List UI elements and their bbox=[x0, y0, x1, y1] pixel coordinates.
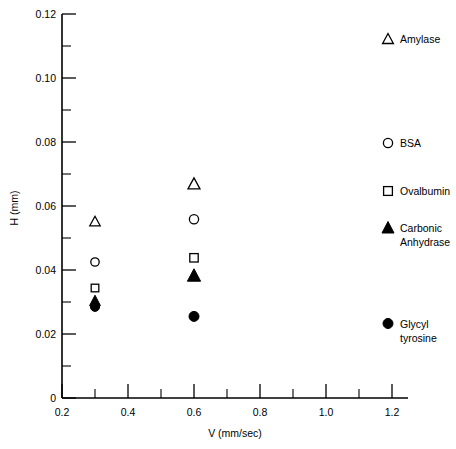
data-point-ovalbumin-0.6 bbox=[190, 254, 198, 262]
x-tick-label-1.0: 1.0 bbox=[319, 406, 334, 418]
data-point-amylase-0.6 bbox=[188, 178, 200, 189]
y-tick-label-0.08: 0.08 bbox=[36, 136, 57, 148]
open-triangle-icon bbox=[383, 34, 394, 44]
x-tick-label-0.6: 0.6 bbox=[187, 406, 202, 418]
series-carbonic-anhydrase bbox=[90, 269, 201, 306]
y-tick-label-0: 0 bbox=[50, 392, 56, 404]
legend-entry-glycyl-tyrosine: Glycyl tyrosine bbox=[383, 318, 437, 344]
open-circle-icon bbox=[383, 138, 392, 147]
data-point-carbonic-anhydrase-0.6 bbox=[187, 269, 200, 281]
x-axis-title: V (mm/sec) bbox=[208, 427, 262, 439]
open-square-icon bbox=[384, 187, 393, 196]
x-tick-labels: 0.2 0.4 0.6 0.8 1.0 1.2 bbox=[55, 406, 400, 418]
filled-triangle-icon bbox=[382, 222, 394, 234]
plot-canvas: 0.12 0.10 0.08 0.06 0.04 0.02 0 0.2 bbox=[0, 0, 456, 449]
y-tick-label-0.06: 0.06 bbox=[36, 200, 57, 212]
series-ovalbumin bbox=[91, 254, 198, 292]
legend: Amylase BSA Ovalbumin Carbonic Anhydrase bbox=[382, 33, 450, 344]
legend-label-ovalbumin: Ovalbumin bbox=[400, 185, 450, 197]
x-tick-label-0.4: 0.4 bbox=[121, 406, 136, 418]
scatter-chart-figure: 0.12 0.10 0.08 0.06 0.04 0.02 0 0.2 bbox=[0, 0, 456, 449]
y-axis-ticks bbox=[62, 14, 76, 398]
legend-entry-amylase: Amylase bbox=[383, 33, 441, 45]
legend-label-anhydrase: Anhydrase bbox=[400, 236, 450, 248]
data-point-glycyl-tyrosine-0.3 bbox=[90, 302, 99, 311]
y-tick-labels: 0.12 0.10 0.08 0.06 0.04 0.02 0 bbox=[36, 8, 57, 404]
legend-entry-ovalbumin: Ovalbumin bbox=[384, 185, 451, 197]
series-amylase bbox=[90, 178, 200, 226]
filled-circle-icon bbox=[383, 319, 393, 329]
data-point-ovalbumin-0.3 bbox=[91, 284, 99, 292]
y-tick-label-0.04: 0.04 bbox=[36, 264, 57, 276]
y-tick-label-0.10: 0.10 bbox=[36, 72, 57, 84]
x-tick-label-1.2: 1.2 bbox=[385, 406, 400, 418]
y-tick-label-0.12: 0.12 bbox=[36, 8, 57, 20]
x-tick-label-0.8: 0.8 bbox=[253, 406, 268, 418]
series-glycyl-tyrosine bbox=[90, 302, 199, 321]
legend-label-bsa: BSA bbox=[400, 137, 421, 149]
x-tick-label-0.2: 0.2 bbox=[55, 406, 70, 418]
y-tick-label-0.02: 0.02 bbox=[36, 328, 57, 340]
data-point-amylase-0.3 bbox=[90, 216, 100, 226]
x-axis-ticks bbox=[62, 384, 392, 398]
legend-label-glycyl: Glycyl bbox=[400, 318, 429, 330]
legend-entry-carbonic-anhydrase: Carbonic Anhydrase bbox=[382, 222, 450, 249]
legend-label-tyrosine: tyrosine bbox=[400, 332, 437, 344]
legend-entry-bsa: BSA bbox=[383, 137, 421, 149]
legend-label-amylase: Amylase bbox=[400, 33, 440, 45]
axes-group bbox=[62, 14, 408, 398]
data-point-bsa-0.3 bbox=[91, 258, 99, 266]
legend-label-carbonic: Carbonic bbox=[400, 222, 442, 234]
data-point-bsa-0.6 bbox=[189, 215, 198, 224]
y-axis-title: H (mm) bbox=[8, 191, 20, 226]
series-bsa bbox=[91, 215, 199, 267]
data-point-glycyl-tyrosine-0.6 bbox=[189, 311, 199, 321]
